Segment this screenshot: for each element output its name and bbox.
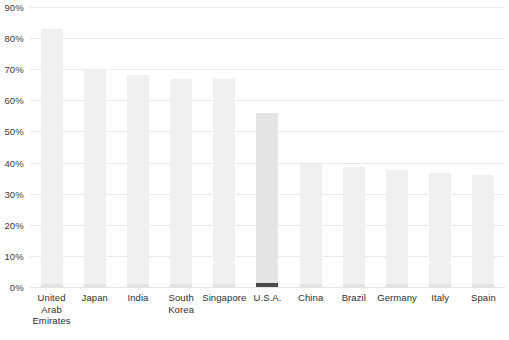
- bar-base: [127, 284, 149, 287]
- bar-base: [472, 284, 494, 287]
- y-axis-tick-label: 60%: [4, 95, 24, 106]
- bar-spain[interactable]: [472, 175, 494, 287]
- y-axis-tick-label: 0%: [10, 282, 24, 293]
- y-axis-tick-label: 20%: [4, 219, 24, 230]
- bar-base: [170, 284, 192, 287]
- bar-india[interactable]: [127, 75, 149, 287]
- y-axis-tick-label: 10%: [4, 250, 24, 261]
- x-axis-label-line: Spain: [455, 292, 509, 304]
- bar-slot: [332, 7, 375, 287]
- y-axis-tick-label: 30%: [4, 188, 24, 199]
- bar-base: [213, 284, 235, 287]
- bar-slot: [246, 7, 289, 287]
- bar-slot: [462, 7, 505, 287]
- bar-base: [84, 284, 106, 287]
- y-axis-tick-label: 80%: [4, 33, 24, 44]
- bar-base: [300, 284, 322, 287]
- plot-area: 0%10%20%30%40%50%60%70%80%90%: [30, 7, 505, 287]
- y-axis-tick-label: 90%: [4, 2, 24, 13]
- bar-japan[interactable]: [84, 69, 106, 287]
- bar-slot: [160, 7, 203, 287]
- x-axis-label-line: Emirates: [24, 315, 80, 327]
- bar-singapore[interactable]: [213, 79, 235, 287]
- bar-slot: [375, 7, 418, 287]
- bar-base-highlight: [256, 283, 278, 287]
- y-axis-tick-label: 50%: [4, 126, 24, 137]
- bar-base: [429, 284, 451, 287]
- bar-slot: [203, 7, 246, 287]
- bar-slot: [30, 7, 73, 287]
- bar-brazil[interactable]: [343, 167, 365, 287]
- bar-chart: 0%10%20%30%40%50%60%70%80%90% UnitedArab…: [0, 0, 509, 340]
- bar-china[interactable]: [300, 164, 322, 287]
- bar-base: [343, 284, 365, 287]
- x-axis-label-line: Arab: [24, 304, 80, 316]
- y-axis-tick-label: 70%: [4, 64, 24, 75]
- bar-slot: [73, 7, 116, 287]
- bar-united-arab-emirates[interactable]: [41, 29, 63, 287]
- x-axis-label-line: Korea: [153, 304, 209, 316]
- bar-u-s-a[interactable]: [256, 113, 278, 287]
- y-axis-tick-label: 40%: [4, 157, 24, 168]
- bar-italy[interactable]: [429, 173, 451, 287]
- bar-slot: [419, 7, 462, 287]
- bar-base: [386, 284, 408, 287]
- bars-layer: [30, 7, 505, 287]
- bar-slot: [289, 7, 332, 287]
- bar-germany[interactable]: [386, 170, 408, 287]
- bar-base: [41, 284, 63, 287]
- bar-slot: [116, 7, 159, 287]
- bar-south-korea[interactable]: [170, 79, 192, 287]
- gridline-0pct: [30, 287, 505, 288]
- x-axis-label: Spain: [455, 292, 509, 304]
